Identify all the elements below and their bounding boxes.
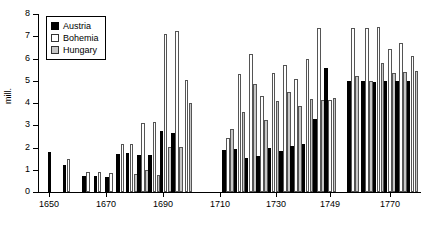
- x-tick: [49, 192, 50, 197]
- bar-bohemia-1663: [86, 172, 90, 192]
- y-tick-label: 8: [14, 9, 30, 18]
- y-tick-label: 2: [14, 143, 30, 152]
- bar-bohemia-1737: [294, 79, 298, 192]
- legend-swatch-bohemia: [51, 34, 59, 42]
- bar-bohemia-1679: [130, 144, 134, 192]
- bar-austria-1774: [395, 81, 399, 192]
- x-tick: [330, 192, 331, 197]
- bar-hungary-1757: [355, 76, 359, 192]
- bar-austria-1679: [126, 153, 130, 192]
- bar-austria-1745: [313, 119, 317, 192]
- bar-bohemia-1757: [351, 28, 355, 192]
- bar-bohemia-1713: [226, 138, 230, 193]
- legend-swatch-hungary: [51, 46, 59, 54]
- legend-item-bohemia: Bohemia: [51, 32, 99, 44]
- y-tick-label: 5: [14, 76, 30, 85]
- legend-item-hungary: Hungary: [51, 44, 99, 56]
- bar-austria-1717: [234, 149, 238, 192]
- bar-bohemia-1683: [141, 123, 145, 192]
- bar-austria-1671: [105, 177, 109, 192]
- x-tick-label: 1749: [320, 199, 340, 209]
- bar-austria-1683: [137, 155, 141, 192]
- bar-bohemia-1749: [328, 100, 332, 192]
- bar-bohemia-1766: [377, 27, 381, 192]
- bar-bohemia-1774: [399, 43, 403, 192]
- bar-austria-1695: [171, 133, 175, 192]
- bar-austria-1741: [302, 144, 306, 193]
- bar-austria-1663: [82, 176, 86, 192]
- bar-bohemia-1745: [317, 28, 321, 192]
- x-tick-label: 1690: [153, 199, 173, 209]
- x-tick: [276, 192, 277, 197]
- bar-hungary-1699: [189, 103, 193, 192]
- legend-item-austria: Austria: [51, 20, 99, 32]
- bar-austria-1770: [384, 81, 388, 192]
- y-tick-label: 7: [14, 31, 30, 40]
- bar-austria-1729: [268, 148, 272, 193]
- bar-austria-1725: [256, 156, 260, 192]
- bar-austria-1737: [290, 146, 294, 192]
- bar-austria-1749: [324, 68, 328, 192]
- bar-bohemia-1671: [109, 173, 113, 192]
- bar-bohemia-1721: [249, 54, 253, 192]
- bar-bohemia-1717: [238, 74, 242, 192]
- legend-swatch-austria: [51, 22, 59, 30]
- bar-bohemia-1675: [121, 144, 125, 192]
- x-tick-label: 1730: [266, 199, 286, 209]
- bar-bohemia-1741: [306, 59, 310, 192]
- bar-bohemia-1729: [272, 73, 276, 192]
- bar-austria-1656: [63, 165, 67, 192]
- x-tick: [106, 192, 107, 197]
- y-axis-title: mill.: [3, 88, 13, 104]
- y-tick-label: 0: [14, 187, 30, 196]
- bar-hungary-1778: [415, 71, 419, 192]
- x-tick-label: 1670: [96, 199, 116, 209]
- bar-austria-1778: [407, 81, 411, 192]
- bar-hungary-1695: [179, 147, 183, 192]
- bar-bohemia-1667: [98, 172, 102, 192]
- bar-austria-1650: [48, 152, 52, 192]
- bar-chart: mill. 012345678 165016701690171017301749…: [0, 0, 434, 236]
- y-tick-label: 6: [14, 54, 30, 63]
- bar-hungary-1749: [333, 98, 337, 192]
- legend-label-austria: Austria: [63, 21, 91, 31]
- x-tick-label: 1710: [210, 199, 230, 209]
- x-tick-label: 1770: [380, 199, 400, 209]
- bar-austria-1713: [222, 150, 226, 192]
- bar-bohemia-1778: [411, 56, 415, 192]
- bar-bohemia-1762: [365, 28, 369, 192]
- bar-austria-1667: [94, 176, 98, 192]
- bar-austria-1766: [373, 82, 377, 192]
- x-axis-line: [38, 192, 421, 193]
- bar-bohemia-1699: [185, 80, 189, 192]
- bar-austria-1757: [347, 81, 351, 192]
- bar-austria-1687: [148, 155, 152, 192]
- bar-bohemia-1656: [67, 159, 71, 192]
- bar-bohemia-1691: [164, 34, 168, 192]
- x-tick: [390, 192, 391, 197]
- legend: Austria Bohemia Hungary: [46, 16, 106, 60]
- x-tick: [220, 192, 221, 197]
- x-tick-label: 1650: [39, 199, 59, 209]
- bar-austria-1675: [116, 154, 120, 192]
- bar-bohemia-1695: [175, 31, 179, 192]
- bar-bohemia-1733: [283, 65, 287, 192]
- legend-label-hungary: Hungary: [63, 45, 97, 55]
- y-tick: [33, 192, 38, 193]
- y-tick-label: 1: [14, 165, 30, 174]
- bar-austria-1691: [160, 131, 164, 192]
- bar-bohemia-1687: [153, 122, 157, 192]
- bar-bohemia-1725: [260, 96, 264, 192]
- y-tick-label: 4: [14, 98, 30, 107]
- y-tick-label: 3: [14, 120, 30, 129]
- bar-austria-1721: [245, 158, 249, 192]
- bar-austria-1762: [361, 81, 365, 192]
- x-tick: [163, 192, 164, 197]
- bar-austria-1733: [279, 151, 283, 192]
- bar-bohemia-1770: [388, 49, 392, 193]
- legend-label-bohemia: Bohemia: [63, 33, 99, 43]
